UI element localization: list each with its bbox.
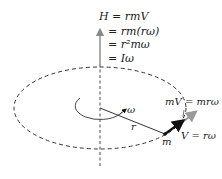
velocity-label: V = rω — [181, 130, 216, 141]
angular-momentum-diagram: H = rmV = rm(rω) = r²mω = Iω ω r m mV = … — [0, 0, 222, 179]
equation-rm-rw: = rm(rω) — [108, 25, 159, 38]
omega-arrow-icon — [120, 110, 125, 114]
momentum-label: mV = mrω — [165, 96, 219, 107]
omega-label: ω — [127, 104, 135, 115]
equation-r2mw: = r²mω — [108, 38, 150, 51]
mass-label: m — [162, 136, 171, 147]
equation-h-rmv: H = rmV — [98, 10, 149, 23]
equation-iw: = Iω — [108, 52, 134, 65]
omega-rotation-arc — [75, 98, 120, 120]
velocity-arrow — [165, 123, 180, 134]
